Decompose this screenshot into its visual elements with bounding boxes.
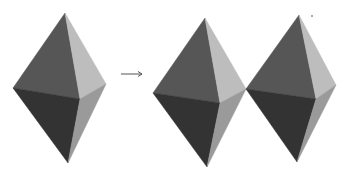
- lower-left-face: [246, 89, 316, 162]
- transform-arrow: [121, 72, 142, 77]
- speck-dot: [311, 15, 313, 17]
- bipyramid-copy-1: [153, 18, 246, 167]
- bipyramid-copy-2: [246, 15, 336, 162]
- bipyramid-original: [13, 13, 106, 163]
- diagram-canvas: [0, 0, 347, 173]
